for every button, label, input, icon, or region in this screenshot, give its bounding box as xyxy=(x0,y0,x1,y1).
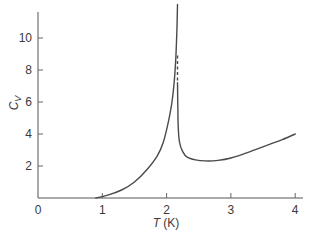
axes xyxy=(38,12,303,198)
y-axis-label-sub: V xyxy=(13,95,23,102)
x-tick-label: 1 xyxy=(99,203,106,217)
y-tick-label: 10 xyxy=(19,31,33,45)
x-ticks: 01234 xyxy=(35,193,299,217)
specific-heat-chart: 01234 246810 T (K) CV xyxy=(0,0,311,235)
x-tick-label: 4 xyxy=(292,203,299,217)
x-axis-label: T (K) xyxy=(153,216,180,230)
x-axis-label-unit: (K) xyxy=(160,216,179,230)
y-axis-label-main: C xyxy=(7,101,21,110)
y-axis-label: CV xyxy=(7,95,23,111)
data-series xyxy=(96,4,295,198)
x-tick-label: 2 xyxy=(163,203,170,217)
y-tick-label: 8 xyxy=(25,63,32,77)
y-tick-label: 4 xyxy=(25,127,32,141)
cv-curve xyxy=(96,4,178,198)
x-tick-label: 3 xyxy=(228,203,235,217)
x-tick-label: 0 xyxy=(35,203,42,217)
y-tick-label: 6 xyxy=(25,95,32,109)
y-tick-label: 2 xyxy=(25,159,32,173)
cv-curve xyxy=(178,83,296,161)
